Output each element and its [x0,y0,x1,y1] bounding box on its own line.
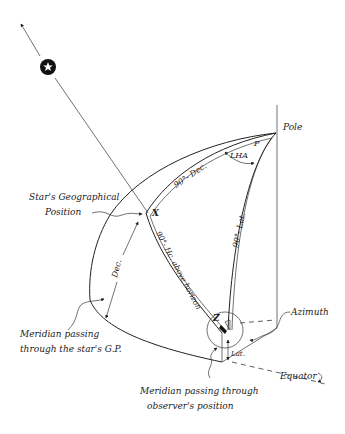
label-lat: Lat. [230,350,245,358]
label-meridian-star-1: Meridian passing [19,329,99,339]
label-x: X [151,208,160,218]
leader-meridian-observer [208,348,217,378]
star-icon [40,59,56,75]
label-90-dec: 90°- Dec. [172,161,208,189]
label-90-lat: 90°- Lat. [231,212,247,248]
label-z: Z [212,313,220,323]
star-ray [21,24,148,213]
label-pole: Pole [282,122,302,132]
label-meridian-star-2: through the star's G.P. [20,344,122,354]
celestial-navigation-diagram: Pole P LHA 90°- Dec. 90°- Lat. 90°- Hc. … [0,0,345,434]
label-azimuth: Azimuth [290,307,329,317]
label-equator: Equator [279,371,318,381]
label-meridian-obs-2: observer's position [147,401,234,411]
label-stars-gp-1: Star's Geographical [29,192,120,202]
label-stars-gp-2: Position [44,207,82,217]
label-90-hc: 90°- Hc. above horizon [154,230,203,311]
label-lha: LHA [229,151,248,160]
label-dec: Dec. [110,259,123,280]
label-meridian-obs-1: Meridian passing through [139,386,259,396]
leader-stars-gp [92,212,142,216]
label-p: P [253,139,260,148]
leader-meridian-star [68,299,104,330]
observer-marker [219,325,227,334]
meridian-star-gp [90,133,276,362]
azimuth-leader [250,312,290,340]
arc-90-dec-inner [150,138,272,216]
